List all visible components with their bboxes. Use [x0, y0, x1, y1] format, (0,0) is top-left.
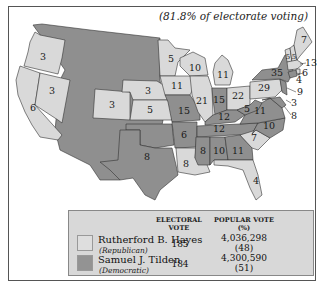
label-oregon: 3 — [40, 51, 46, 62]
label-michigan: 11 — [217, 69, 229, 80]
label-pennsylvania: 29 — [258, 82, 270, 93]
header-popular: POPULAR VOTE (%) — [209, 217, 279, 232]
label-mississippi: 8 — [200, 145, 206, 156]
label-ohio: 22 — [232, 90, 244, 101]
democratic-swatch — [77, 255, 93, 271]
label-missouri: 15 — [178, 105, 190, 116]
label-illinois: 21 — [196, 95, 208, 106]
label-new-jersey: 9 — [297, 86, 303, 97]
label-new-hampshire: 5 — [292, 53, 296, 61]
label-louisiana: 8 — [183, 158, 189, 169]
label-maryland: 8 — [291, 110, 297, 121]
hayes-electoral: 185 — [165, 239, 195, 249]
republican-swatch — [77, 235, 93, 251]
label-minnesota: 5 — [168, 53, 174, 64]
label-wisconsin: 10 — [189, 62, 201, 73]
legend-box: ELECTORAL VOTE POPULAR VOTE (%) Rutherfo… — [68, 210, 314, 276]
label-georgia: 11 — [232, 145, 244, 156]
label-west-virginia: 5 — [244, 103, 250, 114]
label-virginia: 11 — [254, 105, 266, 116]
header-electoral-line2: VOTE — [153, 225, 205, 233]
label-vermont: 5 — [286, 53, 290, 61]
label-indiana: 15 — [213, 94, 225, 105]
label-kentucky: 12 — [218, 111, 230, 122]
label-texas: 8 — [144, 151, 150, 162]
label-florida: 4 — [253, 175, 259, 186]
label-nebraska: 3 — [145, 85, 151, 96]
label-iowa: 11 — [171, 80, 183, 91]
label-new-york: 35 — [271, 67, 283, 78]
label-california: 6 — [30, 102, 36, 113]
hayes-percent: (48) — [209, 243, 279, 253]
turnout-subtitle: (81.8% of electorate voting) — [159, 10, 308, 22]
tilden-electoral: 184 — [165, 259, 195, 269]
label-tennessee: 12 — [213, 123, 225, 134]
label-nevada: 3 — [49, 85, 55, 96]
label-connecticut: 6 — [302, 67, 308, 78]
state-massachusetts — [287, 60, 303, 70]
label-delaware: 3 — [291, 97, 297, 108]
label-south-carolina: 7 — [251, 132, 257, 143]
header-electoral: ELECTORAL VOTE — [153, 217, 205, 232]
tilden-popular: 4,300,590 — [209, 253, 279, 263]
label-north-carolina: 10 — [263, 120, 275, 131]
label-colorado: 3 — [109, 99, 115, 110]
label-alabama: 10 — [213, 145, 225, 156]
party-democratic: (Democratic) — [99, 266, 149, 275]
hayes-popular: 4,036,298 — [209, 233, 279, 243]
label-maine: 7 — [301, 34, 307, 45]
label-kansas: 5 — [147, 104, 153, 115]
label-arkansas: 6 — [181, 129, 187, 140]
tilden-percent: (51) — [209, 263, 279, 273]
header-popular-line2: (%) — [209, 225, 279, 233]
